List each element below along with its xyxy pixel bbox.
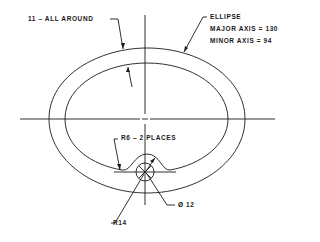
arrowhead-icon bbox=[126, 67, 130, 72]
hole-diameter-label: Ø 12 bbox=[178, 202, 195, 209]
minor-axis-label: MINOR AXIS = 94 bbox=[210, 38, 272, 45]
boss-radius-label: R14 bbox=[113, 220, 127, 227]
arrowhead-icon bbox=[184, 46, 188, 52]
outer-ellipse-profile bbox=[49, 48, 245, 193]
ellipse-leader bbox=[184, 17, 207, 52]
major-axis-label: MAJOR AXIS = 130 bbox=[210, 26, 278, 33]
arrowhead-icon bbox=[121, 43, 125, 49]
inner-ellipse-profile bbox=[65, 63, 228, 170]
boss-radius-leader bbox=[111, 174, 144, 223]
wall-thickness-leader bbox=[110, 19, 123, 49]
arrowhead-icon bbox=[150, 158, 155, 163]
ellipse-label: ELLIPSE bbox=[210, 14, 241, 21]
fillet-radius-label: R6 – 2 PLACES bbox=[121, 135, 176, 142]
wall-thickness-label: 11 – ALL AROUND bbox=[28, 16, 93, 23]
